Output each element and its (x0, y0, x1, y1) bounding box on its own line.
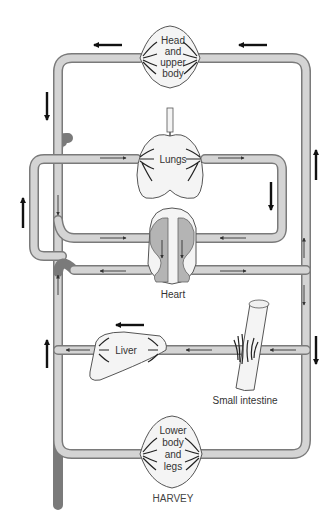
label-heart: Heart (161, 289, 186, 300)
organ-head: Headandupperbody (140, 26, 200, 88)
organ-lower-body: Lowerbodyandlegs (140, 416, 202, 488)
flow-arrows (23, 45, 316, 368)
label-small-intestine: Small intestine (212, 395, 277, 406)
label-lungs: Lungs (159, 154, 186, 165)
label-liver: Liver (115, 345, 137, 356)
circulation-diagram: Headandupperbody Lungs Heart Liver Small… (0, 0, 335, 523)
label-head: Headandupperbody (160, 35, 186, 79)
organ-liver: Liver (90, 332, 167, 380)
organ-heart: Heart (148, 208, 196, 300)
organ-lungs: Lungs (137, 108, 203, 198)
diagram-caption: HARVEY (153, 493, 194, 504)
